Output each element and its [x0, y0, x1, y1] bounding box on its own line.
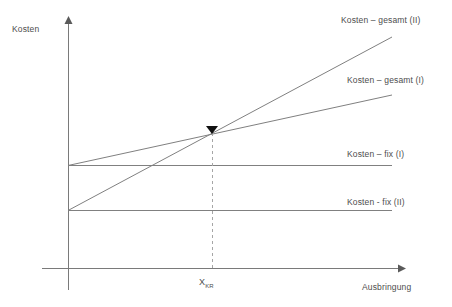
series-label-kosten-gesamt-ii: Kosten – gesamt (II) [341, 15, 421, 25]
series-label-kosten-fix-i: Kosten – fix (I) [347, 149, 404, 159]
chart-canvas: Kosten – gesamt (II) Kosten – gesamt (I)… [0, 0, 452, 307]
break-even-tick-label: XKR [199, 277, 214, 289]
series-line-kosten-gesamt-ii [68, 37, 392, 211]
y-axis-label: Kosten [12, 24, 39, 34]
x-axis [42, 265, 406, 273]
break-even-tick-subscript: KR [205, 283, 214, 289]
series-label-kosten-gesamt-i: Kosten – gesamt (I) [347, 75, 424, 85]
series-line-kosten-gesamt-i [68, 95, 392, 166]
x-axis-label: Ausbringung [362, 282, 411, 292]
y-axis [65, 16, 73, 290]
series-label-kosten-fix-ii: Kosten - fix (II) [347, 197, 405, 207]
